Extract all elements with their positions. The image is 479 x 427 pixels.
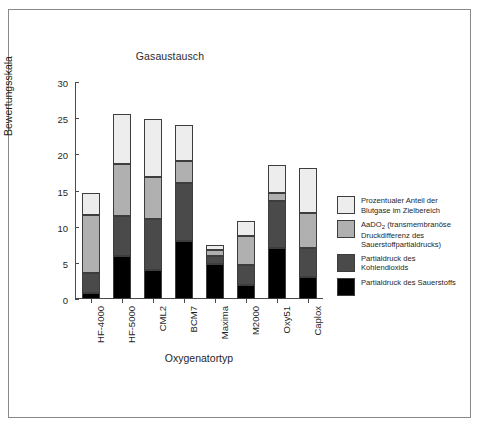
x-tick-label: BCM7 xyxy=(188,306,199,332)
bar-segment[interactable] xyxy=(144,219,162,270)
legend-swatch xyxy=(337,254,355,272)
bar-segment[interactable] xyxy=(237,236,255,265)
y-tick-15: 15 xyxy=(57,182,75,200)
chart-title: Gasaustausch xyxy=(0,50,340,62)
legend-label: AaDO2 (transmembranöseDruckdifferenz des… xyxy=(361,220,471,250)
bar-slot xyxy=(82,82,100,299)
bar-segment[interactable] xyxy=(237,265,255,285)
bar-segment[interactable] xyxy=(206,250,224,256)
legend-label: Prozentualer Anteil derBlutgase im Zielb… xyxy=(361,196,471,215)
legend-swatch xyxy=(337,220,355,238)
bar-segment[interactable] xyxy=(299,248,317,277)
legend-item[interactable]: AaDO2 (transmembranöseDruckdifferenz des… xyxy=(337,220,471,250)
bar-slot xyxy=(268,82,286,299)
stacked-bar[interactable] xyxy=(82,193,100,299)
stacked-bar[interactable] xyxy=(206,245,224,299)
bar-segment[interactable] xyxy=(113,164,131,215)
bar-segment[interactable] xyxy=(268,165,286,193)
x-tick-label: Oxy51 xyxy=(281,306,292,333)
x-tick-label: Maxima xyxy=(219,306,230,339)
bar-segment[interactable] xyxy=(268,248,286,299)
x-tick-mark xyxy=(215,299,216,303)
y-tick-label: 0 xyxy=(63,295,75,306)
x-tick-label: HF-5000 xyxy=(126,306,137,343)
bar-slot xyxy=(237,82,255,299)
stacked-bar[interactable] xyxy=(268,165,286,299)
y-tick-30: 30 xyxy=(57,73,75,91)
y-tick-label: 25 xyxy=(57,114,75,125)
y-tick-mark xyxy=(75,299,79,300)
chart-legend: Prozentualer Anteil derBlutgase im Zielb… xyxy=(337,196,471,302)
legend-label: Partialdruck desKohlendioxids xyxy=(361,254,471,273)
legend-item[interactable]: Prozentualer Anteil derBlutgase im Zielb… xyxy=(337,196,471,216)
bar-segment[interactable] xyxy=(175,161,193,183)
bar-segment[interactable] xyxy=(299,277,317,299)
y-tick-label: 10 xyxy=(57,223,75,234)
x-tick-label: M2000 xyxy=(250,306,261,335)
y-tick-label: 5 xyxy=(63,259,75,270)
chart-figure: Gasaustausch Bewertungsskala 05101520253… xyxy=(0,0,479,427)
y-tick-25: 25 xyxy=(57,109,75,127)
bar-segment[interactable] xyxy=(299,168,317,213)
x-tick-mark xyxy=(91,299,92,303)
x-tick-mark xyxy=(246,299,247,303)
y-axis-title-wrapper: Bewertungsskala xyxy=(38,0,39,1)
x-tick-label: Caplox xyxy=(312,306,323,336)
plot-area: 051015202530 HF-4000HF-5000CML2BCM7Maxim… xyxy=(75,82,323,299)
y-tick-5: 5 xyxy=(63,254,75,272)
bar-segment[interactable] xyxy=(144,119,162,177)
legend-swatch xyxy=(337,196,355,214)
bar-segment[interactable] xyxy=(206,256,224,265)
x-tick-label: HF-4000 xyxy=(95,306,106,343)
x-tick-mark xyxy=(153,299,154,303)
bar-segment[interactable] xyxy=(175,183,193,241)
y-tick-10: 10 xyxy=(57,218,75,236)
bar-segment[interactable] xyxy=(82,273,100,293)
x-tick-label: CML2 xyxy=(157,306,168,331)
bar-segment[interactable] xyxy=(237,285,255,299)
bar-segment[interactable] xyxy=(175,241,193,299)
bar-segment[interactable] xyxy=(144,270,162,299)
bar-segment[interactable] xyxy=(113,216,131,256)
bar-segment[interactable] xyxy=(268,201,286,249)
legend-item[interactable]: Partialdruck des Sauerstoffs xyxy=(337,278,471,298)
bar-slot xyxy=(113,82,131,299)
bar-segment[interactable] xyxy=(237,221,255,236)
legend-item[interactable]: Partialdruck desKohlendioxids xyxy=(337,254,471,274)
bar-slot xyxy=(175,82,193,299)
y-axis-title: Bewertungsskala xyxy=(2,56,14,136)
bar-segment[interactable] xyxy=(175,125,193,160)
bar-segment[interactable] xyxy=(206,264,224,299)
bar-segment[interactable] xyxy=(113,256,131,299)
y-tick-20: 20 xyxy=(57,145,75,163)
stacked-bar[interactable] xyxy=(175,125,193,299)
x-tick-mark xyxy=(277,299,278,303)
bar-segment[interactable] xyxy=(206,245,224,250)
stacked-bar[interactable] xyxy=(237,221,255,299)
bar-segment[interactable] xyxy=(113,114,131,165)
bar-segment[interactable] xyxy=(82,215,100,273)
x-tick-mark xyxy=(308,299,309,303)
stacked-bar[interactable] xyxy=(299,168,317,299)
stacked-bar[interactable] xyxy=(113,114,131,299)
bar-segment[interactable] xyxy=(82,193,100,215)
bar-group xyxy=(76,82,323,299)
y-tick-label: 15 xyxy=(57,187,75,198)
stacked-bar[interactable] xyxy=(144,119,162,299)
legend-swatch xyxy=(337,278,355,296)
x-tick-mark xyxy=(122,299,123,303)
bar-slot xyxy=(144,82,162,299)
bar-slot xyxy=(206,82,224,299)
bar-segment[interactable] xyxy=(268,193,286,200)
y-tick-label: 30 xyxy=(57,78,75,89)
bar-slot xyxy=(299,82,317,299)
y-tick-label: 20 xyxy=(57,150,75,161)
x-tick-mark xyxy=(184,299,185,303)
legend-label: Partialdruck des Sauerstoffs xyxy=(361,278,471,288)
x-axis-title: Oxygenatortyp xyxy=(75,352,323,364)
bar-segment[interactable] xyxy=(144,177,162,220)
y-tick-0: 0 xyxy=(63,290,75,308)
bar-segment[interactable] xyxy=(299,213,317,248)
